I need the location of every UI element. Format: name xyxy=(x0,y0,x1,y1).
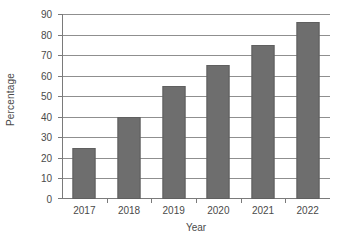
bar-slot xyxy=(241,14,286,199)
bar-slot xyxy=(62,14,107,199)
bar-slot xyxy=(196,14,241,199)
y-axis-tick-label: 40 xyxy=(41,111,52,122)
bar-slot xyxy=(285,14,330,199)
y-axis-tick-label: 30 xyxy=(41,132,52,143)
bar xyxy=(251,45,274,199)
bar xyxy=(162,86,185,199)
y-axis-tick-label: 50 xyxy=(41,91,52,102)
bar xyxy=(73,148,96,199)
x-axis-tick-mark xyxy=(241,199,242,203)
y-axis-tick-label: 80 xyxy=(41,29,52,40)
x-axis-tick-mark xyxy=(151,199,152,203)
bar-slot xyxy=(151,14,196,199)
bar-chart: Percentage 0102030405060708090 201720182… xyxy=(0,0,340,249)
y-axis-tick-label: 60 xyxy=(41,70,52,81)
x-axis-tick-label: 2022 xyxy=(297,205,319,216)
x-axis-tick-mark xyxy=(107,199,108,203)
y-axis-title-text: Percentage xyxy=(6,73,17,126)
bar xyxy=(117,117,140,199)
bar xyxy=(207,65,230,199)
x-axis-tick-label: 2019 xyxy=(163,205,185,216)
y-axis-tick-label: 90 xyxy=(41,9,52,20)
x-axis-tick-label: 2020 xyxy=(207,205,229,216)
bar-slot xyxy=(107,14,152,199)
y-axis-title: Percentage xyxy=(0,0,22,199)
x-axis-tick-mark xyxy=(285,199,286,203)
y-axis-tick-labels: 0102030405060708090 xyxy=(22,8,56,205)
bar-series xyxy=(62,14,330,199)
bar xyxy=(296,22,319,199)
y-axis-tick-label: 0 xyxy=(46,194,52,205)
y-axis-tick-label: 70 xyxy=(41,50,52,61)
x-axis-tick-label: 2017 xyxy=(73,205,95,216)
x-axis-tick-label: 2018 xyxy=(118,205,140,216)
y-axis-tick-label: 20 xyxy=(41,152,52,163)
x-axis-tick-mark xyxy=(196,199,197,203)
y-axis-tick-label: 10 xyxy=(41,173,52,184)
x-axis-title: Year xyxy=(62,222,330,233)
x-axis-tick-label: 2021 xyxy=(252,205,274,216)
plot-area xyxy=(62,14,330,199)
